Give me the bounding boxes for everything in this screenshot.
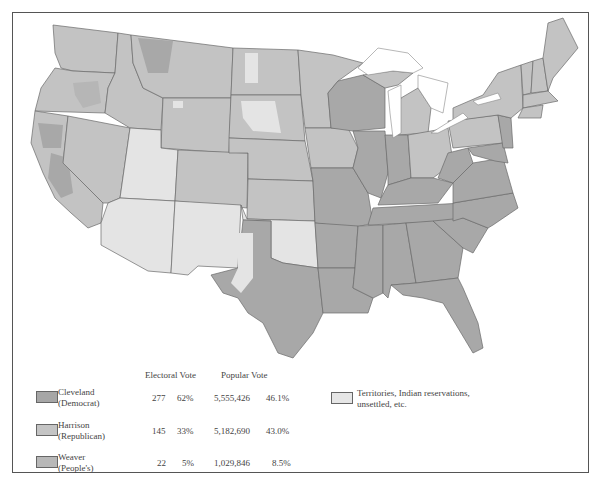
candidate-name: Cleveland bbox=[58, 387, 99, 398]
electoral-votes: 277 bbox=[152, 393, 166, 403]
territories-label: Territories, Indian reservations, unsett… bbox=[357, 388, 470, 410]
electoral-vote-header: Electoral Vote bbox=[145, 370, 196, 380]
state-washington bbox=[53, 25, 118, 73]
state-kansas bbox=[247, 179, 315, 221]
territories-line1: Territories, Indian reservations, bbox=[357, 388, 470, 399]
swatch-republican bbox=[36, 424, 58, 436]
state-wisconsin bbox=[328, 75, 385, 131]
electoral-pct: 33% bbox=[177, 426, 194, 436]
swatch-territories bbox=[331, 392, 353, 404]
state-indiana bbox=[385, 135, 411, 185]
state-arizona bbox=[101, 198, 175, 273]
lake-superior bbox=[358, 48, 423, 75]
popular-votes: 1,029,846 bbox=[214, 458, 250, 468]
state-iowa bbox=[305, 128, 358, 168]
popular-vote-header: Popular Vote bbox=[221, 370, 267, 380]
state-arkansas bbox=[315, 223, 358, 268]
state-mississippi bbox=[353, 225, 383, 298]
popular-votes: 5,555,426 bbox=[214, 393, 250, 403]
swatch-democrat bbox=[36, 391, 58, 403]
candidate-party: (Republican) bbox=[58, 431, 105, 442]
popular-pct: 8.5% bbox=[272, 458, 291, 468]
state-florida bbox=[391, 278, 483, 353]
state-maine bbox=[543, 18, 578, 91]
candidate-label: Harrison (Republican) bbox=[58, 420, 105, 442]
electoral-pct: 62% bbox=[177, 393, 194, 403]
us-election-map-1892 bbox=[13, 13, 589, 363]
popular-pct: 46.1% bbox=[266, 393, 289, 403]
lake-michigan bbox=[388, 85, 401, 138]
popular-pct: 43.0% bbox=[266, 426, 289, 436]
territories-line2: unsettled, etc. bbox=[357, 399, 470, 410]
candidate-label: Cleveland (Democrat) bbox=[58, 387, 99, 409]
candidate-party: (People's) bbox=[58, 463, 94, 474]
candidate-party: (Democrat) bbox=[58, 398, 99, 409]
state-colorado bbox=[175, 150, 248, 208]
electoral-votes: 22 bbox=[157, 458, 166, 468]
swatch-peoples bbox=[36, 456, 58, 468]
candidate-label: Weaver (People's) bbox=[58, 452, 94, 474]
state-new-york bbox=[453, 65, 523, 121]
popular-votes: 5,182,690 bbox=[214, 426, 250, 436]
candidate-name: Harrison bbox=[58, 420, 105, 431]
electoral-pct: 5% bbox=[182, 458, 194, 468]
state-new-mexico bbox=[171, 201, 241, 275]
candidate-name: Weaver bbox=[58, 452, 94, 463]
electoral-votes: 145 bbox=[152, 426, 166, 436]
state-wyoming bbox=[161, 98, 231, 153]
state-north-dakota bbox=[231, 48, 301, 95]
